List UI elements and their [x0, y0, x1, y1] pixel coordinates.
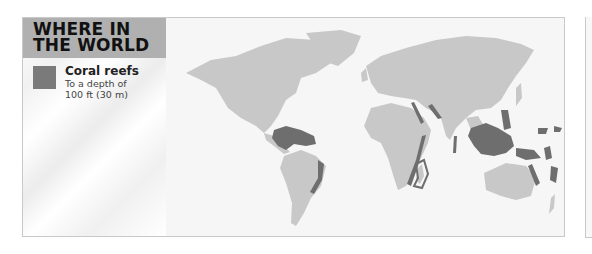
legend-swatch: [33, 66, 56, 89]
legend-description-2: 100 ft (30 m): [65, 89, 139, 100]
legend-label: Coral reefs: [65, 65, 139, 78]
panel-title: WHERE IN THE WORLD: [33, 21, 158, 53]
world-map: [166, 18, 564, 236]
landmasses: [186, 30, 555, 226]
map-figure: WHERE IN THE WORLD Coral reefs To a dept…: [22, 17, 565, 237]
legend-item-coral-reefs: Coral reefs To a depth of 100 ft (30 m): [23, 58, 166, 100]
legend-description-1: To a depth of: [65, 78, 139, 89]
panel-header: WHERE IN THE WORLD: [23, 18, 166, 58]
adjacent-panel-edge: [585, 17, 592, 238]
title-line-2: THE WORLD: [33, 35, 149, 55]
world-map-graphic: [166, 18, 564, 236]
legend-panel: WHERE IN THE WORLD Coral reefs To a dept…: [23, 18, 167, 236]
